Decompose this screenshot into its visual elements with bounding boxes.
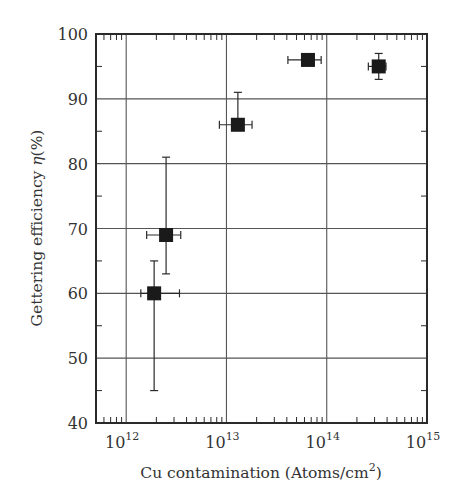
x-tick-label: 1015 (406, 430, 440, 452)
data-point (147, 157, 181, 274)
data-point (368, 53, 386, 79)
data-point (141, 261, 180, 391)
y-tick-label: 100 (57, 25, 88, 44)
x-tick-label: 1012 (105, 430, 139, 452)
square-marker-icon (372, 59, 386, 73)
square-marker-icon (231, 118, 245, 132)
y-tick-label: 60 (68, 284, 88, 303)
data-point (288, 53, 321, 67)
gettering-efficiency-chart: 405060708090100 1012101310141015 Cu cont… (0, 0, 473, 500)
data-point (219, 92, 252, 131)
y-tick-label: 50 (68, 349, 88, 368)
square-marker-icon (147, 286, 161, 300)
x-tick-label: 1014 (306, 430, 340, 452)
x-tick-label: 1013 (205, 430, 239, 452)
y-axis-tick-labels: 405060708090100 (57, 25, 88, 433)
y-tick-label: 90 (68, 90, 88, 109)
y-axis-title: Gettering efficiency η(%) (28, 130, 46, 327)
square-marker-icon (301, 53, 315, 67)
grid-lines (96, 34, 427, 423)
x-axis-tick-labels: 1012101310141015 (105, 430, 440, 452)
y-tick-label: 80 (68, 155, 88, 174)
data-points (141, 53, 386, 391)
y-tick-label: 40 (68, 414, 88, 433)
square-marker-icon (159, 228, 173, 242)
y-tick-label: 70 (68, 220, 88, 239)
x-axis-title: Cu contamination (Atoms/cm2) (140, 461, 381, 482)
